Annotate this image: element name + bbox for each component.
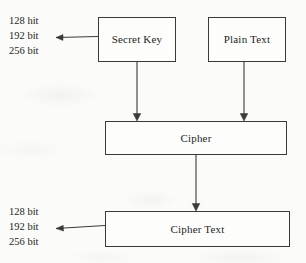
node-cipher-label: Cipher (180, 133, 211, 144)
output-size-line-2: 192 bit (9, 219, 38, 234)
node-cipher-text: Cipher Text (105, 211, 290, 247)
edge-secret-key-to-cipher (133, 62, 141, 121)
edge-plain-text-to-cipher (240, 62, 248, 121)
cipher-block-diagram: 128 hit 192 bit 256 bit 128 bit 192 bit … (0, 0, 306, 263)
output-size-line-3: 256 bit (9, 234, 38, 249)
output-size-annotation: 128 bit 192 bit 256 bit (9, 204, 38, 249)
key-size-line-1: 128 hit (9, 13, 38, 28)
node-plain-text: Plain Text (208, 17, 286, 62)
edge-secret-key-to-key-sizes (56, 35, 98, 41)
output-size-line-1: 128 bit (9, 204, 38, 219)
node-cipher: Cipher (105, 121, 287, 155)
node-secret-key-label: Secret Key (112, 34, 163, 45)
edge-cipher-to-cipher-text (192, 155, 200, 211)
node-secret-key: Secret Key (98, 17, 176, 62)
node-plain-text-label: Plain Text (224, 34, 271, 45)
key-size-annotation: 128 hit 192 bit 256 bit (9, 13, 38, 58)
key-size-line-3: 256 bit (9, 43, 38, 58)
key-size-line-2: 192 bit (9, 28, 38, 43)
node-cipher-text-label: Cipher Text (170, 224, 224, 235)
edge-cipher-text-to-output-sizes (56, 225, 105, 231)
